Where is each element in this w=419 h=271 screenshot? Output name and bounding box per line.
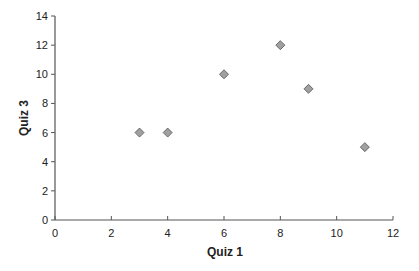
y-tick-label: 4 [42,156,48,168]
y-tick-label: 6 [42,127,48,139]
x-tick-label: 2 [108,227,114,239]
y-tick-label: 8 [42,97,48,109]
scatter-chart: 02468101214024681012 Quiz 1 Quiz 3 [0,0,419,271]
y-tick-label: 12 [36,39,48,51]
y-tick-label: 0 [42,214,48,226]
x-tick-label: 0 [52,227,58,239]
diamond-marker [135,128,144,137]
y-axis-title: Quiz 3 [17,100,31,136]
axes: 02468101214024681012 [36,10,399,239]
x-tick-label: 6 [221,227,227,239]
y-tick-label: 10 [36,68,48,80]
y-tick-label: 14 [36,10,48,22]
x-tick-label: 4 [165,227,171,239]
y-tick-label: 2 [42,185,48,197]
diamond-marker [360,143,369,152]
x-tick-label: 8 [277,227,283,239]
x-axis-title: Quiz 1 [207,245,243,259]
diamond-marker [163,128,172,137]
x-tick-label: 12 [387,227,399,239]
x-tick-label: 10 [331,227,343,239]
diamond-marker [220,70,229,79]
data-points [135,41,369,152]
diamond-marker [276,41,285,50]
diamond-marker [304,84,313,93]
